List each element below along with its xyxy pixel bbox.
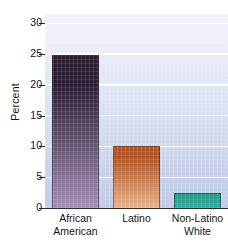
- y-tick-label: 15: [2, 110, 42, 121]
- bar-outline: [113, 146, 160, 208]
- bar-latino: [113, 146, 160, 208]
- plot-area: [45, 14, 228, 208]
- x-axis-line: [45, 208, 228, 209]
- gridline: [45, 23, 228, 24]
- bar-non-latino-white: [174, 193, 221, 208]
- y-tick-label: 20: [2, 79, 42, 90]
- y-tick-label: 5: [2, 171, 42, 182]
- y-tick-label: 0: [2, 202, 42, 213]
- x-tick-label-line: Latino: [102, 212, 171, 225]
- y-tick-label: 30: [2, 17, 42, 28]
- x-tick-label-line: White: [163, 225, 228, 238]
- x-tick-label-non-latino-white: Non-LatinoWhite: [163, 212, 228, 237]
- bar-outline: [174, 193, 221, 208]
- bar-african-american: [52, 55, 99, 208]
- x-tick-label-line: American: [41, 225, 110, 238]
- bar-chart-figure: Percent 051015202530 AfricanAmericanLati…: [0, 0, 228, 247]
- x-tick-label-line: Non-Latino: [163, 212, 228, 225]
- x-tick-label-line: African: [41, 212, 110, 225]
- y-axis-title: Percent: [9, 56, 21, 148]
- bar-outline: [52, 55, 99, 208]
- x-tick-label-african-american: AfricanAmerican: [41, 212, 110, 237]
- x-tick-label-latino: Latino: [102, 212, 171, 225]
- y-tick-label: 25: [2, 48, 42, 59]
- y-tick-label: 10: [2, 140, 42, 151]
